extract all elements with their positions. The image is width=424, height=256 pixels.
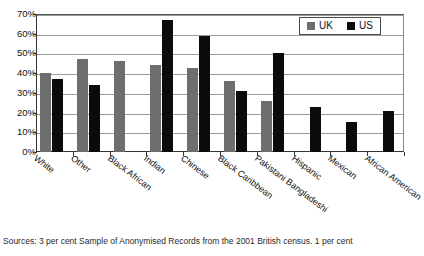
bar-us bbox=[383, 111, 394, 152]
y-axis-tick-label: 20% bbox=[4, 108, 36, 118]
bar-us bbox=[89, 85, 100, 152]
bar-us bbox=[236, 91, 247, 152]
legend-item-us: US bbox=[347, 21, 373, 31]
bar-uk bbox=[187, 68, 198, 152]
legend-swatch-icon bbox=[307, 22, 315, 30]
legend-label: UK bbox=[319, 21, 333, 31]
legend-swatch-icon bbox=[347, 22, 355, 30]
bar-group bbox=[146, 14, 183, 152]
bar-uk bbox=[40, 73, 51, 152]
chart-legend: UKUS bbox=[299, 17, 381, 35]
y-axis-tick-label: 40% bbox=[4, 68, 36, 78]
bar-us bbox=[162, 20, 173, 152]
legend-label: US bbox=[359, 21, 373, 31]
bar-uk bbox=[114, 61, 125, 152]
bar-us bbox=[199, 36, 210, 152]
x-axis-label: African American bbox=[363, 153, 423, 202]
y-axis-tick-label: 0% bbox=[4, 147, 36, 157]
bar-group bbox=[183, 14, 220, 152]
bar-us bbox=[346, 122, 357, 152]
bar-us bbox=[273, 53, 284, 152]
x-axis-label: Mexican bbox=[326, 153, 359, 181]
y-axis-tick-label: 10% bbox=[4, 127, 36, 137]
bar-uk bbox=[77, 59, 88, 152]
y-axis: 70%60%50%40%30%20%10%0% bbox=[0, 14, 36, 152]
y-axis-tick-label: 30% bbox=[4, 88, 36, 98]
bar-group bbox=[220, 14, 257, 152]
bar-uk bbox=[150, 65, 161, 152]
x-axis-label: Other bbox=[69, 153, 93, 175]
bar-us bbox=[52, 79, 63, 152]
bar-us bbox=[310, 107, 321, 152]
bar-group bbox=[36, 14, 73, 152]
x-axis-label: Indian bbox=[142, 153, 168, 176]
x-axis-labels: WhiteOtherBlack AfricanIndianChineseBlac… bbox=[36, 153, 410, 228]
y-axis-tick-label: 70% bbox=[4, 9, 36, 19]
y-axis-tick-label: 50% bbox=[4, 48, 36, 58]
source-caption: Sources: 3 per cent Sample of Anonymised… bbox=[3, 236, 408, 247]
bar-group bbox=[257, 14, 294, 152]
x-axis-label: White bbox=[32, 153, 56, 175]
x-axis-label: Chinese bbox=[179, 153, 211, 181]
y-axis-tick-label: 60% bbox=[4, 29, 36, 39]
bar-uk bbox=[224, 81, 235, 152]
bar-uk bbox=[261, 101, 272, 152]
bar-group bbox=[110, 14, 147, 152]
legend-item-uk: UK bbox=[307, 21, 333, 31]
bar-group bbox=[73, 14, 110, 152]
x-axis-label: Hispanic bbox=[290, 153, 324, 182]
